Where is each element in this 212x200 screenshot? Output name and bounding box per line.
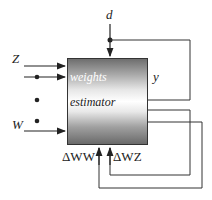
weights-label: weights (70, 71, 107, 83)
y-label: y (153, 70, 159, 83)
z-label: Z (12, 52, 19, 65)
w-label: W (12, 118, 23, 131)
ellipsis-dot (35, 98, 40, 103)
dww-label: ΔWW (62, 150, 95, 163)
weights-estimator-diagram: d Z W weights estimator y ΔWW ΔWZ (0, 0, 212, 200)
d-label: d (106, 8, 113, 21)
estimator-label: estimator (70, 96, 115, 108)
dwz-label: ΔWZ (113, 150, 142, 163)
input-dot (35, 75, 40, 80)
ellipsis-dot (35, 119, 40, 124)
